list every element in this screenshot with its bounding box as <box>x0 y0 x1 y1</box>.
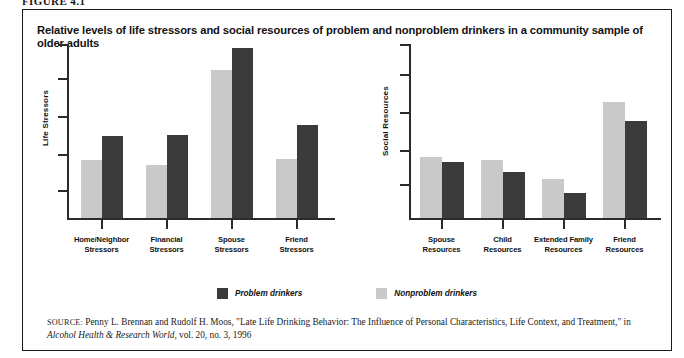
bar-problem <box>102 136 123 218</box>
x-tick-label: Friend Stressors <box>264 235 329 255</box>
bar-group <box>411 48 472 218</box>
plot-area-right <box>409 48 655 218</box>
bar-group <box>472 48 533 218</box>
legend-label: Problem drinkers <box>235 289 302 298</box>
bar-problem <box>167 135 188 218</box>
figure-title: Relative levels of life stressors and so… <box>37 24 657 51</box>
bar-problem <box>297 125 318 219</box>
bar-problem <box>503 172 525 218</box>
bar-nonproblem <box>81 160 102 218</box>
x-tick-label-line: Resources <box>545 245 583 254</box>
bar-group <box>134 48 199 218</box>
y-axis-label-left: Life Stressors <box>41 60 50 146</box>
bar-problem <box>442 162 464 218</box>
plot-area-left <box>67 48 329 218</box>
chart-panel-life-stressors: Life Stressors <box>39 52 339 262</box>
x-tick-label-line: Stressors <box>279 245 313 254</box>
legend-item-problem-drinkers: Problem drinkers <box>217 288 302 299</box>
figure-frame: Relative levels of life stressors and so… <box>22 9 672 351</box>
bar-problem <box>564 193 586 219</box>
x-tick-label-line: Stressors <box>149 245 183 254</box>
x-tick-label: Financial Stressors <box>134 235 199 255</box>
x-tick-label-line: Stressors <box>214 245 248 254</box>
x-ticks-right <box>411 220 655 229</box>
x-tick-label-line: Stressors <box>84 245 118 254</box>
bar-problem <box>232 48 253 218</box>
bar-problem <box>625 121 647 218</box>
figure-number: FIGURE 4.1 <box>22 0 85 7</box>
dark-swatch-icon <box>217 288 228 299</box>
legend-item-nonproblem-drinkers: Nonproblem drinkers <box>376 288 477 299</box>
bar-nonproblem <box>146 165 167 218</box>
x-axis-labels-right: Spouse Resources Child Resources Extende… <box>411 235 655 255</box>
bar-nonproblem <box>276 159 297 219</box>
x-tick-label: Spouse Resources <box>411 235 472 255</box>
x-tick-label-line: Child <box>493 235 511 244</box>
x-tick-label: Home/Neighbor Stressors <box>69 235 134 255</box>
source-text-before: Penny L. Brennan and Rudolf H. Moos, "La… <box>83 317 631 327</box>
x-tick-label: Extended Family Resources <box>533 235 594 255</box>
legend-label: Nonproblem drinkers <box>394 289 477 298</box>
bar-group <box>533 48 594 218</box>
x-tick-label-line: Friend <box>613 235 636 244</box>
bar-group <box>264 48 329 218</box>
source-journal-title: Alcohol Health & Research World <box>47 330 174 340</box>
bar-nonproblem <box>542 179 564 218</box>
bar-groups-left <box>69 48 329 218</box>
bar-nonproblem <box>420 157 442 218</box>
source-text-after: , vol. 20, no. 3, 1996 <box>174 330 251 340</box>
chart-panel-social-resources: Social Resources <box>361 52 661 262</box>
y-axis-label-right: Social Resources <box>381 60 390 156</box>
bar-nonproblem <box>481 160 503 218</box>
x-tick-label-line: Extended Family <box>534 235 593 244</box>
x-tick-label: Child Resources <box>472 235 533 255</box>
x-tick-label-line: Resources <box>606 245 644 254</box>
chart-legend: Problem drinkers Nonproblem drinkers <box>23 288 671 299</box>
x-tick-label-line: Resources <box>423 245 461 254</box>
x-tick-label-line: Spouse <box>428 235 455 244</box>
source-prefix: SOURCE: <box>47 318 83 327</box>
x-ticks-left <box>69 220 329 229</box>
bar-group <box>69 48 134 218</box>
source-note: SOURCE: Penny L. Brennan and Rudolf H. M… <box>47 316 649 343</box>
x-tick-label-line: Spouse <box>218 235 245 244</box>
bar-group <box>199 48 264 218</box>
x-tick-label-line: Financial <box>150 235 182 244</box>
x-tick-label-line: Friend <box>285 235 308 244</box>
x-tick-label: Spouse Stressors <box>199 235 264 255</box>
bar-groups-right <box>411 48 655 218</box>
bar-nonproblem <box>603 102 625 218</box>
x-tick-label: Friend Resources <box>594 235 655 255</box>
x-tick-label-line: Home/Neighbor <box>74 235 129 244</box>
bar-group <box>594 48 655 218</box>
x-tick-label-line: Resources <box>484 245 522 254</box>
light-swatch-icon <box>376 288 387 299</box>
x-axis-labels-left: Home/Neighbor Stressors Financial Stress… <box>69 235 329 255</box>
bar-nonproblem <box>211 70 232 218</box>
